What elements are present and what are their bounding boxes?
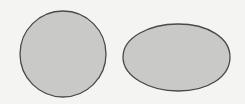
circle-shape — [20, 11, 106, 97]
shapes-figure — [0, 0, 245, 104]
diagram-canvas: circle ellipse — [0, 0, 245, 104]
egg-ellipse-shape — [123, 24, 230, 91]
